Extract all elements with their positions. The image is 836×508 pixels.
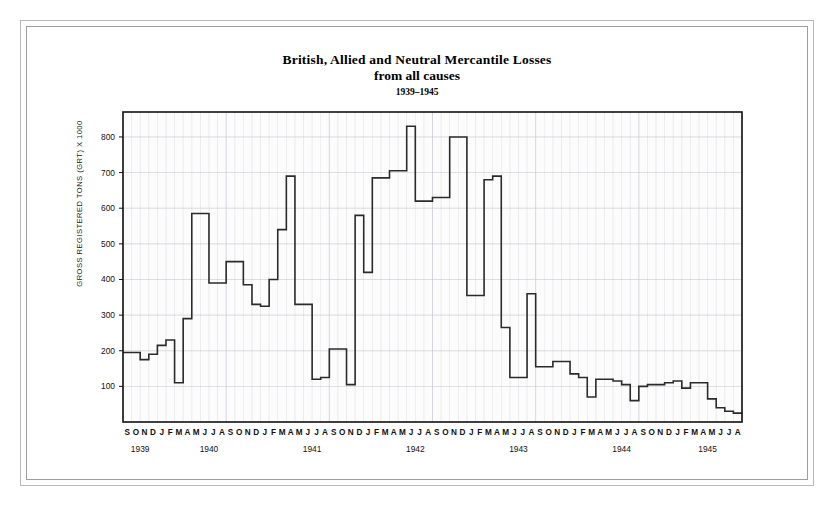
chart-card: British, Allied and Neutral Mercantile L… bbox=[27, 27, 807, 479]
plot-svg bbox=[27, 27, 807, 479]
y-tick-label-300: 300 bbox=[81, 310, 115, 320]
y-tick-label-600: 600 bbox=[81, 203, 115, 213]
y-tick-label-100: 100 bbox=[81, 381, 115, 391]
x-month-label-1945-08: A bbox=[733, 428, 743, 437]
x-year-label-1943: 1943 bbox=[498, 444, 538, 454]
plot-wrapper: GROSS REGISTERED TONS (GRT) X 1000 10020… bbox=[27, 27, 807, 479]
x-year-label-1939: 1939 bbox=[120, 444, 160, 454]
y-tick-label-500: 500 bbox=[81, 239, 115, 249]
y-tick-label-400: 400 bbox=[81, 274, 115, 284]
x-year-label-1942: 1942 bbox=[395, 444, 435, 454]
y-tick-label-800: 800 bbox=[81, 132, 115, 142]
x-year-label-1945: 1945 bbox=[688, 444, 728, 454]
x-year-label-1944: 1944 bbox=[602, 444, 642, 454]
x-year-label-1941: 1941 bbox=[292, 444, 332, 454]
y-tick-label-200: 200 bbox=[81, 346, 115, 356]
x-year-label-1940: 1940 bbox=[189, 444, 229, 454]
y-tick-label-700: 700 bbox=[81, 168, 115, 178]
chart-page: British, Allied and Neutral Mercantile L… bbox=[0, 0, 836, 508]
